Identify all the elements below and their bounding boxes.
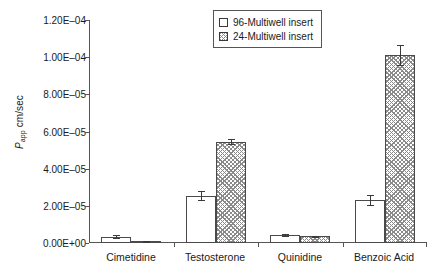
y-tick-label: 1.00E–04 [26, 52, 86, 63]
y-tick-label: 0.00E+00 [26, 238, 86, 249]
x-category-label: Cimetidine [106, 251, 156, 263]
chart-legend: 96-Multiwell insert 24-Multiwell insert [213, 10, 322, 48]
error-bar-cap-lower [312, 237, 319, 238]
y-axis-title-symbol: P [14, 142, 25, 149]
legend-swatch-open-icon [219, 18, 228, 27]
x-tick-mark [258, 243, 259, 247]
bar-benzoic-acid-s2 [385, 55, 415, 243]
error-bar-cap-lower [282, 236, 289, 237]
y-axis-title-unit: cm/sec [14, 95, 25, 130]
y-axis-tick-labels: 0.00E+00 2.00E–05 4.00E–05 6.00E–05 8.00… [26, 0, 86, 277]
error-bar-cap-lower [113, 238, 120, 239]
error-bar-cap-lower [367, 205, 374, 206]
error-bar-line [400, 45, 401, 65]
error-bar-cap-lower [198, 200, 205, 201]
legend-entry: 96-Multiwell insert [219, 15, 313, 29]
error-bar-line [370, 195, 371, 205]
y-tick-mark [85, 132, 89, 133]
y-tick-label: 1.20E–04 [26, 15, 86, 26]
chart-figure: Papp cm/sec 0.00E+00 2.00E–05 4.00E–05 6… [0, 0, 432, 277]
x-category-label: Benzoic Acid [354, 251, 414, 263]
y-tick-mark [85, 94, 89, 95]
legend-entry: 24-Multiwell insert [219, 29, 313, 43]
x-category-label: Testosterone [185, 251, 245, 263]
x-tick-mark [174, 243, 175, 247]
x-tick-mark [426, 243, 427, 247]
error-bar-cap-lower [143, 242, 150, 243]
y-tick-label: 2.00E–05 [26, 200, 86, 211]
plot-area [89, 20, 427, 243]
legend-swatch-hatched-icon [219, 32, 228, 41]
legend-entry-label: 96-Multiwell insert [233, 17, 313, 28]
y-tick-mark [85, 206, 89, 207]
bar-testosterone-s2 [216, 142, 246, 243]
y-axis-title-subscript: app [19, 130, 26, 142]
bar-benzoic-acid-s1 [355, 200, 385, 243]
x-tick-mark [343, 243, 344, 247]
error-bar-line [201, 191, 202, 200]
error-bar-cap-upper [367, 195, 374, 196]
error-bar-cap-upper [397, 45, 404, 46]
y-tick-mark [85, 243, 89, 244]
y-axis-line [89, 20, 90, 243]
error-bar-cap-upper [228, 139, 235, 140]
legend-entry-label: 24-Multiwell insert [233, 31, 313, 42]
bar-testosterone-s1 [186, 196, 216, 243]
error-bar-cap-lower [228, 144, 235, 145]
y-tick-mark [85, 169, 89, 170]
error-bar-cap-lower [397, 65, 404, 66]
y-tick-mark [85, 20, 89, 21]
error-bar-cap-upper [113, 235, 120, 236]
x-category-label: Quinidine [278, 251, 322, 263]
error-bar-cap-upper [198, 191, 205, 192]
y-tick-mark [85, 57, 89, 58]
y-tick-label: 8.00E–05 [26, 89, 86, 100]
y-tick-label: 6.00E–05 [26, 126, 86, 137]
y-tick-label: 4.00E–05 [26, 163, 86, 174]
